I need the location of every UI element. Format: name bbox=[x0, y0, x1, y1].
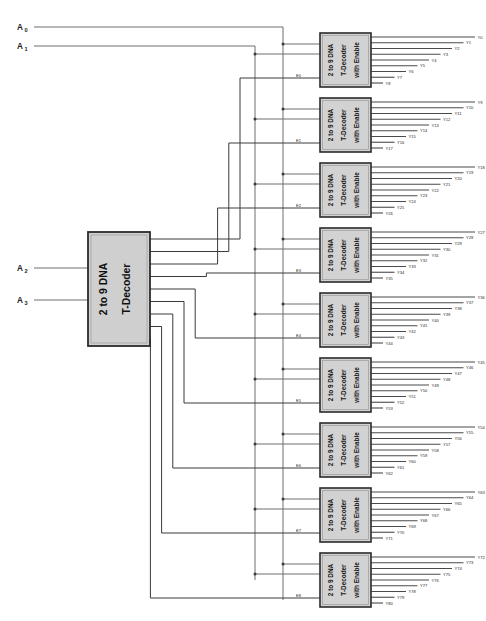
output-label-Y18: Y18 bbox=[478, 165, 486, 170]
output-label-Y48: Y48 bbox=[443, 377, 451, 382]
enable-route-E6 bbox=[150, 314, 320, 468]
sub-decoder-block-2[interactable]: 2 to 9 DNAT-Decoderwith Enable bbox=[320, 163, 371, 217]
output-label-Y63: Y63 bbox=[478, 490, 486, 495]
input-label-base-A0: A bbox=[17, 23, 23, 32]
output-label-Y27: Y27 bbox=[478, 230, 486, 235]
sub-decoder-block-1[interactable]: 2 to 9 DNAT-Decoderwith Enable bbox=[320, 98, 371, 152]
output-label-Y66: Y66 bbox=[443, 507, 451, 512]
output-label-Y9: Y9 bbox=[478, 100, 484, 105]
junction-a0-block0 bbox=[282, 43, 285, 46]
output-label-Y39: Y39 bbox=[443, 312, 451, 317]
enable-label-E1: E1 bbox=[296, 138, 302, 143]
input-label-sub-A1: 1 bbox=[25, 46, 28, 52]
output-label-Y76: Y76 bbox=[432, 578, 440, 583]
output-label-Y57: Y57 bbox=[443, 442, 451, 447]
output-label-Y38: Y38 bbox=[455, 306, 463, 311]
output-label-Y30: Y30 bbox=[443, 247, 451, 252]
output-label-Y62: Y62 bbox=[386, 471, 394, 476]
enable-route-E5 bbox=[150, 302, 320, 404]
output-label-Y33: Y33 bbox=[409, 264, 417, 269]
input-label-base-A3: A bbox=[17, 296, 23, 305]
sub-decoder-block-8[interactable]: 2 to 9 DNAT-Decoderwith Enable bbox=[320, 553, 371, 607]
sub-decoder-block-5[interactable]: 2 to 9 DNAT-Decoderwith Enable bbox=[320, 358, 371, 412]
output-label-Y40: Y40 bbox=[432, 318, 440, 323]
output-label-Y3: Y3 bbox=[443, 52, 449, 57]
output-label-Y71: Y71 bbox=[386, 536, 394, 541]
sub-decoder-label-2-line1: 2 to 9 DNA bbox=[327, 173, 334, 206]
enable-route-E0 bbox=[150, 78, 320, 239]
junction-a0-block3 bbox=[282, 238, 285, 241]
output-label-Y41: Y41 bbox=[420, 323, 428, 328]
junction-a0-block7 bbox=[282, 498, 285, 501]
main-decoder-label-line2: T-Decoder bbox=[121, 264, 132, 315]
sub-decoder-label-0-line1: 2 to 9 DNA bbox=[327, 43, 334, 76]
output-label-Y35: Y35 bbox=[386, 276, 394, 281]
input-label-A3: A3 bbox=[17, 296, 28, 306]
output-label-Y59: Y59 bbox=[420, 453, 428, 458]
output-label-Y16: Y16 bbox=[397, 140, 405, 145]
output-label-Y55: Y55 bbox=[466, 430, 474, 435]
main-decoder-block[interactable]: 2 to 9 DNAT-Decoder bbox=[88, 232, 150, 346]
output-label-Y13: Y13 bbox=[432, 123, 440, 128]
sub-decoder-label-3-line3: with Enable bbox=[353, 237, 360, 274]
sub-decoder-label-8-line2: T-Decoder bbox=[340, 564, 347, 596]
junction-a1-block2 bbox=[254, 183, 257, 186]
output-label-Y37: Y37 bbox=[466, 300, 474, 305]
sub-decoder-label-4-line1: 2 to 9 DNA bbox=[327, 303, 334, 336]
output-label-Y60: Y60 bbox=[409, 459, 417, 464]
enable-label-E4: E4 bbox=[296, 333, 302, 338]
output-label-Y77: Y77 bbox=[420, 583, 428, 588]
output-label-Y56: Y56 bbox=[455, 436, 463, 441]
sub-decoder-label-7-line2: T-Decoder bbox=[340, 499, 347, 531]
sub-decoder-label-4-line2: T-Decoder bbox=[340, 304, 347, 336]
input-label-sub-A0: 0 bbox=[25, 27, 28, 33]
output-label-Y69: Y69 bbox=[409, 524, 417, 529]
enable-route-E3 bbox=[150, 273, 320, 277]
output-label-Y53: Y53 bbox=[386, 406, 394, 411]
output-label-Y28: Y28 bbox=[466, 235, 474, 240]
output-label-Y79: Y79 bbox=[397, 595, 405, 600]
sub-decoder-label-5-line2: T-Decoder bbox=[340, 369, 347, 401]
output-label-Y46: Y46 bbox=[466, 365, 474, 370]
sub-decoder-label-1-line2: T-Decoder bbox=[340, 109, 347, 141]
enable-route-E7 bbox=[150, 327, 320, 534]
input-label-A1: A1 bbox=[17, 42, 28, 52]
output-label-Y54: Y54 bbox=[478, 425, 486, 430]
junction-a0-block4 bbox=[282, 303, 285, 306]
output-label-Y12: Y12 bbox=[443, 117, 451, 122]
junction-a1-block7 bbox=[254, 508, 257, 511]
input-label-sub-A3: 3 bbox=[25, 300, 28, 306]
output-label-Y80: Y80 bbox=[386, 601, 394, 606]
output-label-Y42: Y42 bbox=[409, 329, 417, 334]
enable-route-E1 bbox=[150, 143, 320, 252]
sub-decoder-label-5-line1: 2 to 9 DNA bbox=[327, 368, 334, 401]
output-label-Y70: Y70 bbox=[397, 530, 405, 535]
output-label-Y20: Y20 bbox=[455, 176, 463, 181]
output-label-Y7: Y7 bbox=[397, 75, 403, 80]
sub-decoder-label-2-line3: with Enable bbox=[353, 172, 360, 209]
sub-decoder-block-7[interactable]: 2 to 9 DNAT-Decoderwith Enable bbox=[320, 488, 371, 542]
output-label-Y52: Y52 bbox=[397, 400, 405, 405]
output-label-Y2: Y2 bbox=[455, 46, 461, 51]
output-label-Y47: Y47 bbox=[455, 371, 463, 376]
output-label-Y0: Y0 bbox=[478, 35, 484, 40]
sub-decoder-block-4[interactable]: 2 to 9 DNAT-Decoderwith Enable bbox=[320, 293, 371, 347]
sub-decoder-block-0[interactable]: 2 to 9 DNAT-Decoderwith Enable bbox=[320, 33, 371, 87]
output-label-Y24: Y24 bbox=[409, 199, 417, 204]
output-label-Y11: Y11 bbox=[455, 111, 463, 116]
output-label-Y14: Y14 bbox=[420, 128, 428, 133]
output-label-Y58: Y58 bbox=[432, 448, 440, 453]
output-label-Y25: Y25 bbox=[397, 205, 405, 210]
junction-a0-block8 bbox=[282, 563, 285, 566]
junction-a0-block1 bbox=[282, 108, 285, 111]
sub-decoder-label-3-line2: T-Decoder bbox=[340, 239, 347, 271]
sub-decoder-block-6[interactable]: 2 to 9 DNAT-Decoderwith Enable bbox=[320, 423, 371, 477]
block-layer: 2 to 9 DNAT-Decoderwith Enable2 to 9 DNA… bbox=[88, 33, 371, 607]
junction-a0-block2 bbox=[282, 173, 285, 176]
sub-decoder-block-3[interactable]: 2 to 9 DNAT-Decoderwith Enable bbox=[320, 228, 371, 282]
output-label-Y51: Y51 bbox=[409, 394, 417, 399]
output-label-Y15: Y15 bbox=[409, 134, 417, 139]
output-label-Y45: Y45 bbox=[478, 360, 486, 365]
junction-a1-block5 bbox=[254, 378, 257, 381]
output-label-Y64: Y64 bbox=[466, 495, 474, 500]
